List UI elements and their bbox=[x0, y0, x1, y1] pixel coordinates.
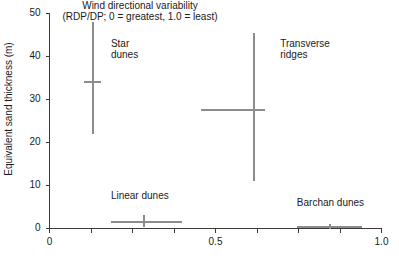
series-label-line: Star bbox=[111, 38, 138, 50]
x-tick-label: 0 bbox=[33, 236, 67, 248]
chart-figure: Equivalent sand thickness (m) Wind direc… bbox=[0, 0, 399, 278]
series-marker bbox=[84, 22, 101, 134]
x-tick-label: 1.0 bbox=[365, 236, 399, 248]
series-label-line: Transverse bbox=[280, 38, 330, 50]
series-label-line: dunes bbox=[111, 49, 138, 61]
y-tick-label: 50 bbox=[19, 7, 41, 19]
y-tick-label: 20 bbox=[19, 136, 41, 148]
series-label: Barchan dunes bbox=[297, 197, 364, 209]
series-label: Stardunes bbox=[111, 38, 138, 62]
series-label-line: Barchan dunes bbox=[297, 197, 364, 209]
series-label: Linear dunes bbox=[111, 190, 169, 202]
series-marker bbox=[201, 33, 266, 181]
y-axis-title: Equivalent sand thickness (m) bbox=[3, 6, 15, 212]
y-tick-label: 0 bbox=[19, 222, 41, 234]
y-tick-label: 30 bbox=[19, 93, 41, 105]
series-label-line: ridges bbox=[280, 49, 330, 61]
y-tick-label: 10 bbox=[19, 179, 41, 191]
series-marker bbox=[111, 215, 182, 227]
series-label: Transverseridges bbox=[280, 38, 330, 62]
y-tick-label: 40 bbox=[19, 50, 41, 62]
x-tick-label: 0.5 bbox=[199, 236, 233, 248]
series-label-line: Linear dunes bbox=[111, 190, 169, 202]
series-marker bbox=[297, 224, 362, 228]
